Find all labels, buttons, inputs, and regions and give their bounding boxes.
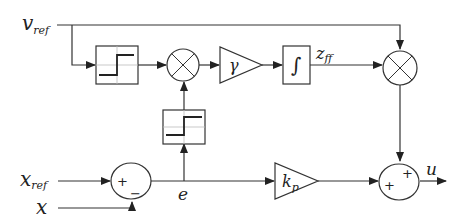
v-ref-branch xyxy=(72,25,95,65)
v-ref-label: vref xyxy=(22,11,51,37)
svg-text:−: − xyxy=(130,186,141,201)
u-label: u xyxy=(426,159,437,179)
relay-block-1 xyxy=(96,46,138,84)
multiplier-1 xyxy=(167,49,199,81)
svg-text:+: + xyxy=(384,178,395,193)
block-diagram: vref xyxy=(0,0,466,221)
relay-block-2 xyxy=(163,110,205,144)
summing-junction-2: + + xyxy=(379,164,419,200)
x-line xyxy=(58,202,132,208)
svg-text:γ: γ xyxy=(229,56,239,75)
e-label: e xyxy=(178,184,188,204)
summing-junction-1: + − xyxy=(111,163,151,201)
multiplier-2 xyxy=(383,51,417,85)
svg-text:∫: ∫ xyxy=(291,53,301,77)
integrator-block: ∫ xyxy=(283,46,310,84)
gain-kp: kp xyxy=(275,163,318,199)
svg-text:+: + xyxy=(117,174,128,189)
svg-text:+: + xyxy=(402,166,413,181)
z-ff-label: zff xyxy=(315,44,334,65)
gain-gamma: γ xyxy=(220,47,262,83)
x-ref-label: xref xyxy=(20,167,49,192)
x-label: x xyxy=(36,195,47,219)
